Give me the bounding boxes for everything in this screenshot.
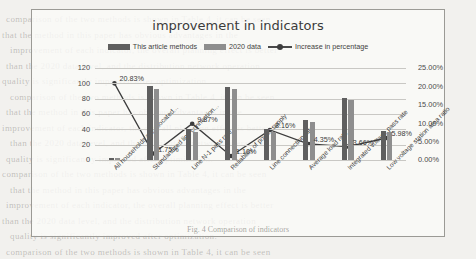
legend-item-increase-in-percentage: Increase in percentage: [268, 42, 368, 51]
legend-label-series-2: 2020 data: [229, 42, 261, 51]
data-label-percentage: 1.75%: [158, 145, 178, 154]
plot-area: 0204060801001200.00%5.00%10.00%15.00%20.…: [95, 68, 406, 160]
bar-this-article-methods: [225, 87, 230, 160]
y-axis-right-tick-label: 15.00%: [418, 100, 458, 109]
data-label-percentage: 9.87%: [197, 115, 217, 124]
y-axis-left-tick-label: 60: [64, 109, 90, 118]
y-axis-right-tick-label: 25.00%: [418, 63, 458, 72]
y-axis-left-tick-label: 20: [64, 140, 90, 149]
legend-label-series-3: Increase in percentage: [295, 42, 368, 51]
bar-this-article-methods: [186, 129, 191, 160]
data-label-percentage: 20.83%: [119, 74, 143, 83]
data-label-percentage: 1.10%: [236, 147, 256, 156]
gridline: [95, 129, 406, 130]
bar-this-article-methods: [342, 98, 347, 160]
bar-2020-data: [271, 132, 276, 160]
legend-marker-series-3: [268, 44, 292, 50]
data-label-percentage: 3.66%: [353, 138, 373, 147]
legend-item-this-article-methods: This article methods: [108, 42, 197, 51]
y-axis-left-tick-label: 80: [64, 94, 90, 103]
data-label-percentage: 4.35%: [314, 135, 334, 144]
legend-swatch-series-2: [204, 44, 226, 50]
bar-this-article-methods: [264, 129, 269, 160]
y-axis-right-tick-label: 20.00%: [418, 82, 458, 91]
bar-2020-data: [348, 100, 353, 160]
gridline: [95, 68, 406, 69]
legend-label-series-1: This article methods: [133, 42, 197, 51]
y-axis-left-tick-label: 100: [64, 79, 90, 88]
chart-title: improvement in indicators: [32, 18, 444, 33]
y-axis-left-tick-label: 120: [64, 63, 90, 72]
background-text-line: comparison of the two methods is shown i…: [6, 247, 271, 257]
y-axis-left-tick-label: 0: [64, 155, 90, 164]
y-axis-right-tick-label: 5.00%: [418, 137, 458, 146]
chart-legend: This article methods 2020 data Increase …: [32, 42, 444, 51]
bar-this-article-methods: [303, 120, 308, 160]
y-axis-right-tick-label: 0.00%: [418, 155, 458, 164]
y-axis-left-tick-label: 40: [64, 125, 90, 134]
bar-this-article-methods: [147, 86, 152, 160]
gridline: [95, 99, 406, 100]
legend-swatch-series-1: [108, 44, 130, 50]
bar-this-article-methods: [381, 131, 386, 160]
bar-2020-data: [193, 132, 198, 160]
data-label-percentage: 8.16%: [275, 121, 295, 130]
data-label-percentage: 5.98%: [392, 129, 412, 138]
bar-this-article-methods: [109, 158, 114, 160]
legend-item-2020-data: 2020 data: [204, 42, 261, 51]
gridline: [95, 114, 406, 115]
chart-container: improvement in indicators This article m…: [31, 9, 445, 237]
gridline: [95, 83, 406, 84]
figure-caption: Fig. 4 Comparison of indicators: [32, 225, 444, 234]
